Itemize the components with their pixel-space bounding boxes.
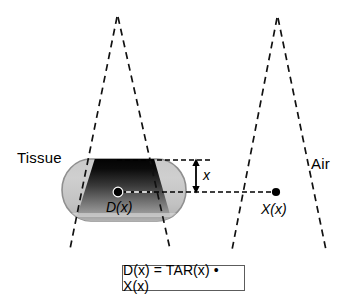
- diagram-canvas: Tissue Air D(x) X(x) x D(x) = TAR(x) • X…: [0, 0, 348, 304]
- tissue-label: Tissue: [17, 149, 62, 166]
- dose-point-dot: [113, 187, 123, 197]
- dose-point-label: D(x): [106, 199, 132, 215]
- depth-label: x: [203, 167, 210, 183]
- exposure-point-dot: [272, 188, 280, 196]
- depth-arrow: [192, 159, 199, 194]
- formula-box: D(x) = TAR(x) • X(x): [122, 265, 245, 291]
- exposure-point-label: X(x): [261, 201, 287, 217]
- formula-text: D(x) = TAR(x) • X(x): [123, 262, 244, 294]
- air-label: Air: [311, 155, 330, 172]
